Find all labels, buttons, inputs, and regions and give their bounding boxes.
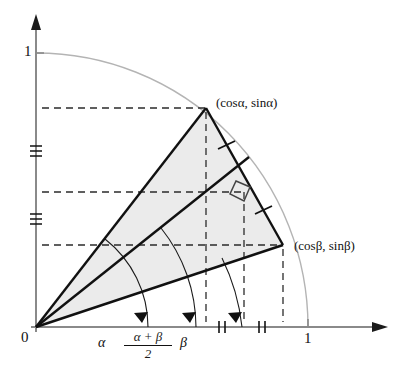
angle-midpoint-denominator: 2 (122, 347, 174, 361)
angle-beta-label: β (180, 336, 187, 350)
angle-arrow-alpha-icon (134, 312, 148, 323)
x-axis-arrow-icon (372, 322, 388, 332)
point-beta-label: (cosβ, sinβ) (294, 239, 355, 252)
y-axis-arrow-icon (31, 14, 41, 30)
shaded-triangle (36, 108, 283, 327)
math-diagram (0, 0, 400, 374)
angle-arrow-beta-icon (228, 312, 242, 323)
angle-midpoint-label: α + β 2 (122, 330, 174, 360)
y-axis-one-label: 1 (24, 44, 32, 59)
angle-midpoint-numerator: α + β (122, 330, 174, 344)
angle-arrow-midpoint-icon (182, 312, 196, 323)
angle-alpha-label: α (98, 336, 105, 350)
x-axis-one-label: 1 (304, 331, 312, 346)
origin-label: 0 (21, 330, 29, 345)
point-alpha-label: (cosα, sinα) (216, 96, 277, 109)
